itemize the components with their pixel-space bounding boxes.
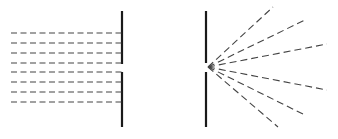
diffraction-diagram — [0, 0, 338, 139]
narrow-slit-panel — [206, 7, 327, 127]
diagram-canvas — [0, 0, 338, 139]
wide-opening-panel — [11, 11, 122, 127]
diffracted-ray-line — [208, 44, 327, 67]
diffracted-ray-line — [208, 67, 305, 115]
diffracted-ray-line — [208, 20, 305, 67]
diffracted-ray-line — [208, 67, 327, 90]
diffracted-ray-line — [208, 7, 273, 67]
